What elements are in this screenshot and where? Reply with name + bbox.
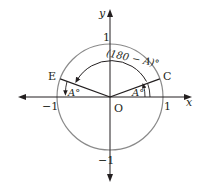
point-e-label: E (48, 70, 56, 83)
x-axis-label: x (186, 96, 193, 109)
angle-a-label-e: A° (67, 87, 80, 98)
origin-label: O (114, 102, 123, 115)
angle-arc-c-outer (148, 83, 150, 97)
point-c-label: C (163, 70, 171, 83)
angle-arc-e (65, 82, 67, 94)
angle-180-minus-a-label: (180 − A)° (105, 47, 160, 69)
y-tick-neg1: −1 (98, 154, 114, 167)
y-axis-label: y (98, 7, 106, 20)
x-tick-neg1: −1 (42, 100, 58, 113)
angle-a-label-c: A° (131, 87, 144, 98)
unit-circle-diagram: y x 1 −1 1 −1 O C E A° A° (180 − A)° (0, 0, 203, 185)
x-tick-1: 1 (164, 100, 171, 113)
y-tick-1: 1 (103, 31, 110, 44)
